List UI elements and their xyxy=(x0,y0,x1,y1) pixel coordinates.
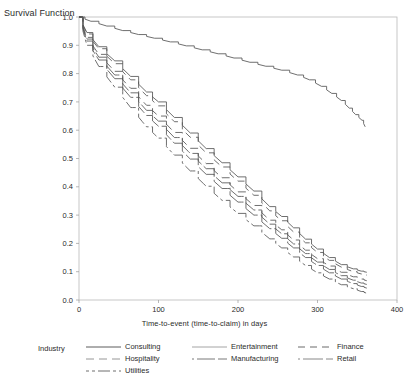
series-layer xyxy=(79,17,367,293)
y-tick-label: 0.2 xyxy=(63,239,73,248)
series-line-hospitality xyxy=(79,17,367,281)
x-tick-label: 400 xyxy=(391,305,404,314)
plot-frame xyxy=(79,17,397,300)
x-tick-label: 100 xyxy=(152,305,165,314)
series-line-entertainment xyxy=(79,17,367,272)
legend-line-swatch xyxy=(86,367,121,375)
legend-line-swatch xyxy=(192,355,227,363)
legend-line-swatch xyxy=(86,343,121,351)
legend-line-swatch xyxy=(298,355,333,363)
legend-item-label: Retail xyxy=(337,355,356,363)
legend-item-label: Finance xyxy=(337,343,364,351)
x-axis-title: Time-to-event (time-to-claim) in days xyxy=(0,319,409,328)
legend-item-label: Manufacturing xyxy=(231,355,279,363)
legend-line-swatch xyxy=(192,343,227,351)
legend-item-utilities[interactable]: Utilities xyxy=(86,365,192,377)
survival-function-chart: Survival Function 0.00.10.20.30.40.50.60… xyxy=(0,0,409,379)
y-tick-label: 0.5 xyxy=(63,154,73,163)
legend-item-finance[interactable]: Finance xyxy=(298,341,404,353)
legend-line-swatch xyxy=(298,343,333,351)
series-line-manufacturing xyxy=(79,17,367,284)
legend-item-retail[interactable]: Retail xyxy=(298,353,404,365)
legend-item-manufacturing[interactable]: Manufacturing xyxy=(192,353,298,365)
series-line-consulting xyxy=(79,17,365,127)
y-tick-label: 0.8 xyxy=(63,69,73,78)
x-tick-label: 200 xyxy=(232,305,245,314)
x-tick-label: 300 xyxy=(311,305,324,314)
legend-item-label: Utilities xyxy=(125,367,149,375)
legend-item-consulting[interactable]: Consulting xyxy=(86,341,192,353)
series-line-retail xyxy=(79,17,367,288)
legend: Industry ConsultingEntertainmentFinanceH… xyxy=(0,340,409,379)
y-tick-label: 0.3 xyxy=(63,211,73,220)
legend-entries: ConsultingEntertainmentFinanceHospitalit… xyxy=(86,341,404,377)
y-tick-label: 0.1 xyxy=(63,267,73,276)
legend-item-hospitality[interactable]: Hospitality xyxy=(86,353,192,365)
x-tick-label: 0 xyxy=(77,305,81,314)
y-tick-label: 0.4 xyxy=(63,182,73,191)
legend-item-label: Consulting xyxy=(125,343,160,351)
y-tick-label: 1.0 xyxy=(63,13,73,22)
legend-line-swatch xyxy=(86,355,121,363)
legend-item-entertainment[interactable]: Entertainment xyxy=(192,341,298,353)
y-tick-label: 0.7 xyxy=(63,98,73,107)
legend-item-label: Entertainment xyxy=(231,343,278,351)
legend-item-label: Hospitality xyxy=(125,355,160,363)
y-tick-label: 0.6 xyxy=(63,126,73,135)
y-tick-label: 0.9 xyxy=(63,41,73,50)
legend-title: Industry xyxy=(38,344,65,353)
series-line-finance xyxy=(79,17,367,275)
y-tick-label: 0.0 xyxy=(63,296,73,305)
